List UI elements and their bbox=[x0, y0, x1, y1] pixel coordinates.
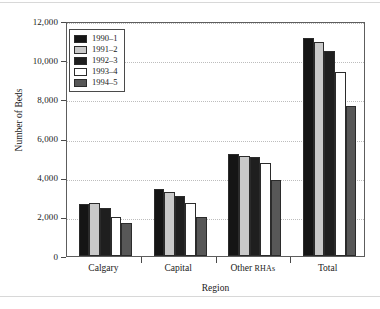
legend-item[interactable]: 1992–3 bbox=[74, 55, 118, 66]
y-axis-tick bbox=[61, 257, 66, 258]
legend-swatch-icon bbox=[74, 68, 87, 76]
x-axis-label-other-rhas: Other RHAs bbox=[216, 263, 291, 273]
bar bbox=[250, 157, 261, 256]
legend-item[interactable]: 1990–1 bbox=[74, 33, 118, 44]
bar bbox=[314, 42, 325, 256]
legend-swatch-icon bbox=[74, 57, 87, 65]
bar bbox=[260, 163, 271, 256]
bar bbox=[271, 180, 282, 256]
legend-item[interactable]: 1993–4 bbox=[74, 66, 118, 77]
legend-item[interactable]: 1991–2 bbox=[74, 44, 118, 55]
page-rule-top bbox=[0, 2, 380, 3]
bar bbox=[228, 154, 239, 256]
y-axis-tick-label: 8,000 bbox=[37, 96, 58, 105]
y-axis-tick-label: 6,000 bbox=[37, 135, 58, 144]
bar bbox=[324, 51, 335, 256]
legend-swatch-icon bbox=[74, 79, 87, 87]
bar-chart-figure: Number of Beds 02,0004,0006,0008,00010,0… bbox=[0, 0, 380, 309]
bar bbox=[121, 223, 132, 256]
bar bbox=[164, 192, 175, 256]
legend-item-label: 1992–3 bbox=[92, 56, 118, 65]
legend-item-label: 1994–5 bbox=[92, 78, 118, 87]
x-axis-title: Region bbox=[66, 283, 365, 293]
legend-item-label: 1993–4 bbox=[92, 67, 118, 76]
x-axis-label-total: Total bbox=[290, 263, 365, 273]
bar bbox=[346, 106, 357, 256]
y-axis-title: Number of Beds bbox=[14, 70, 24, 170]
page-rule-bottom bbox=[0, 296, 380, 297]
y-axis-tick-label: 2,000 bbox=[37, 213, 58, 222]
legend-item-label: 1990–1 bbox=[92, 34, 118, 43]
bar bbox=[196, 217, 207, 256]
legend-item-label: 1991–2 bbox=[92, 45, 118, 54]
bar bbox=[79, 204, 90, 256]
bar bbox=[100, 208, 111, 256]
y-axis-tick-label: 0 bbox=[53, 253, 58, 262]
x-axis-label-calgary: Calgary bbox=[66, 263, 141, 273]
bar bbox=[111, 217, 122, 256]
y-axis-tick-label: 12,000 bbox=[33, 18, 58, 27]
legend-item[interactable]: 1994–5 bbox=[74, 77, 118, 88]
bar bbox=[185, 203, 196, 256]
y-axis-tick-label: 4,000 bbox=[37, 174, 58, 183]
legend-swatch-icon bbox=[74, 46, 87, 54]
bar bbox=[89, 203, 100, 256]
bar bbox=[175, 196, 186, 257]
bar bbox=[303, 38, 314, 256]
bar bbox=[239, 156, 250, 256]
legend-swatch-icon bbox=[74, 35, 87, 43]
bar bbox=[154, 189, 165, 256]
bar bbox=[335, 72, 346, 256]
legend[interactable]: 1990–11991–21992–31993–41994–5 bbox=[69, 29, 125, 92]
x-axis-label-capital: Capital bbox=[141, 263, 216, 273]
gridline bbox=[67, 23, 364, 24]
y-axis-tick-label: 10,000 bbox=[33, 57, 58, 66]
